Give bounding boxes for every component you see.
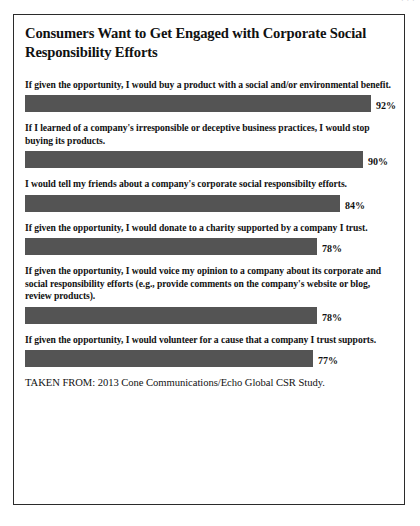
bar-row: 84% [25, 195, 395, 212]
bar-value-label: 84% [345, 201, 365, 212]
bar-value-label: 77% [318, 356, 338, 367]
chart-frame: Consumers Want to Get Engaged with Corpo… [13, 14, 405, 505]
bar-fill [25, 195, 340, 212]
bar-row: 92% [25, 95, 395, 112]
page-title: Consumers Want to Get Engaged with Corpo… [25, 24, 395, 63]
bar-item-label: I would tell my friends about a company'… [25, 178, 395, 190]
chart-inner: Consumers Want to Get Engaged with Corpo… [25, 24, 395, 498]
bar-value-label: 78% [322, 313, 342, 324]
bar-fill [25, 350, 313, 367]
bar-fill [25, 307, 317, 324]
bar-item-label: If given the opportunity, I would donate… [25, 222, 395, 234]
bar-list: If given the opportunity, I would buy a … [25, 79, 395, 367]
bar-item-label: If given the opportunity, I would buy a … [25, 79, 395, 91]
bar-item-label: If I learned of a company's irresponsibl… [25, 122, 395, 147]
bar-row: 77% [25, 350, 395, 367]
bar-row: 78% [25, 238, 395, 255]
bar-value-label: 92% [376, 101, 396, 112]
bar-fill [25, 151, 363, 168]
source-attribution: TAKEN FROM: 2013 Cone Communications/Ech… [25, 377, 395, 388]
bar-item-5: If given the opportunity, I would voice … [25, 265, 395, 323]
bar-item-4: If given the opportunity, I would donate… [25, 222, 395, 255]
bar-item-6: If given the opportunity, I would volunt… [25, 334, 395, 367]
bar-row: 90% [25, 151, 395, 168]
bar-item-2: If I learned of a company's irresponsibl… [25, 122, 395, 168]
bar-row: 78% [25, 307, 395, 324]
bar-fill [25, 95, 371, 112]
bar-item-3: I would tell my friends about a company'… [25, 178, 395, 211]
bar-item-1: If given the opportunity, I would buy a … [25, 79, 395, 112]
bar-value-label: 78% [322, 244, 342, 255]
bar-fill [25, 238, 317, 255]
running-head: · · · [150, 0, 415, 5]
bar-item-label: If given the opportunity, I would voice … [25, 265, 395, 302]
bar-value-label: 90% [368, 157, 388, 168]
bar-item-label: If given the opportunity, I would volunt… [25, 334, 395, 346]
page-root: · · · Consumers Want to Get Engaged with… [0, 0, 420, 526]
